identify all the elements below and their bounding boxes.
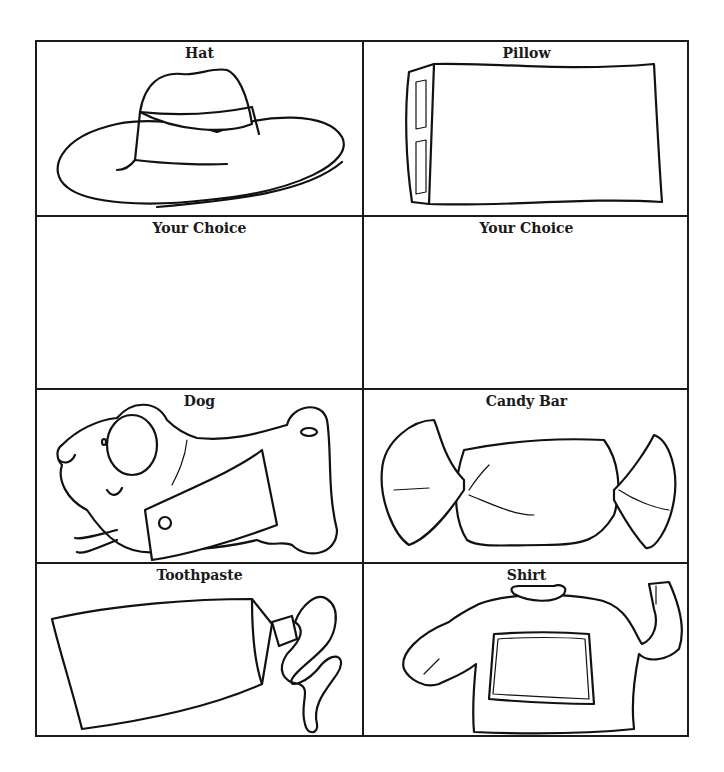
cell-label-toothpaste: Toothpaste (37, 567, 362, 583)
cell-label-shirt: Shirt (364, 567, 689, 583)
cowboy-hat-icon (37, 42, 362, 215)
cell-label-candy-bar: Candy Bar (364, 393, 689, 409)
cell-label-dog: Dog (37, 393, 362, 409)
cell-label-pillow: Pillow (364, 45, 689, 61)
worksheet-grid: Hat Pillow Your Choice Your Choice Dog (35, 40, 689, 737)
toothpaste-tube-icon (37, 564, 362, 737)
cell-dog: Dog (37, 390, 362, 562)
dog-with-coat-icon (37, 390, 362, 562)
cell-label-hat: Hat (37, 45, 362, 61)
cell-label-your-choice-left: Your Choice (37, 220, 362, 236)
cell-toothpaste: Toothpaste (37, 564, 362, 737)
wrapped-candy-icon (364, 390, 689, 562)
cell-candy-bar: Candy Bar (364, 390, 689, 562)
cell-shirt: Shirt (364, 564, 689, 737)
cell-pillow: Pillow (364, 42, 689, 215)
cell-your-choice-right: Your Choice (364, 217, 689, 388)
cell-hat: Hat (37, 42, 362, 215)
cell-label-your-choice-right: Your Choice (364, 220, 689, 236)
pillow-icon (364, 42, 689, 215)
sweater-shirt-icon (364, 564, 689, 737)
cell-your-choice-left: Your Choice (37, 217, 362, 388)
